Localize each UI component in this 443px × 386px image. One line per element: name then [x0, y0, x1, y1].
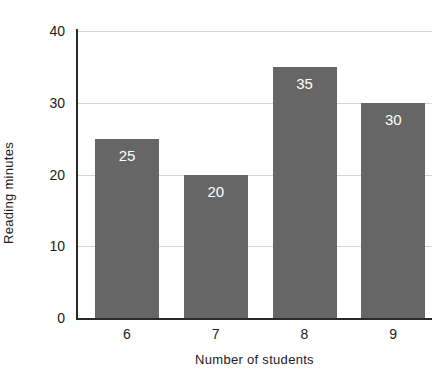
y-axis-tick-label: 0: [57, 310, 65, 326]
bar-group[interactable]: 30: [361, 31, 425, 318]
x-axis-line: [76, 318, 432, 320]
bar[interactable]: 35: [273, 67, 337, 318]
bars-layer: 25203530: [77, 31, 432, 318]
bar[interactable]: 20: [184, 175, 248, 319]
bar-value-label: 20: [184, 183, 248, 200]
y-axis-tick-label: 20: [49, 167, 65, 183]
x-axis-tick-labels: 6789: [77, 322, 432, 348]
y-axis-tick-label: 10: [49, 238, 65, 254]
bar-group[interactable]: 25: [95, 31, 159, 318]
bar[interactable]: 25: [95, 139, 159, 318]
bar-chart: Reading minutes 010203040 25203530 6789 …: [0, 0, 443, 386]
y-axis-tick-labels: 010203040: [0, 0, 77, 386]
bar-group[interactable]: 35: [273, 31, 337, 318]
x-axis-title: Number of students: [77, 352, 432, 367]
bar-value-label: 35: [273, 75, 337, 92]
x-axis-tick-label: 9: [389, 326, 397, 342]
x-axis-tick-label: 7: [212, 326, 220, 342]
bar-value-label: 30: [361, 111, 425, 128]
bar-value-label: 25: [95, 147, 159, 164]
x-axis-title-label: Number of students: [195, 352, 314, 367]
x-axis-tick-label: 6: [123, 326, 131, 342]
y-axis-tick-label: 30: [49, 95, 65, 111]
bar[interactable]: 30: [361, 103, 425, 318]
bar-group[interactable]: 20: [184, 31, 248, 318]
y-axis-tick-label: 40: [49, 23, 65, 39]
x-axis-tick-label: 8: [301, 326, 309, 342]
